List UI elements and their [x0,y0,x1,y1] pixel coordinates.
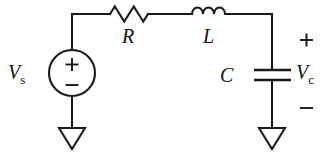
label-inductor: L [203,26,214,46]
voltage-source-circle [49,50,95,96]
label-output-voltage: Vc [296,62,314,86]
ground-left-icon [59,128,85,149]
label-capacitor: C [220,65,233,85]
label-output-voltage-text: V [296,61,308,83]
output-plus-icon [300,34,313,47]
capacitor-symbol [254,70,291,80]
circuit-diagram: Vs R L C Vc [0,0,336,158]
label-voltage-source: Vs [8,62,25,86]
label-output-voltage-subscript: c [308,72,314,87]
label-voltage-source-text: V [8,61,20,83]
circuit-schematic-canvas [0,0,336,158]
inductor-symbol [192,8,232,14]
label-resistor: R [122,26,134,46]
label-voltage-source-subscript: s [20,72,25,87]
resistor-symbol [110,7,148,22]
ground-right-icon [259,128,285,149]
